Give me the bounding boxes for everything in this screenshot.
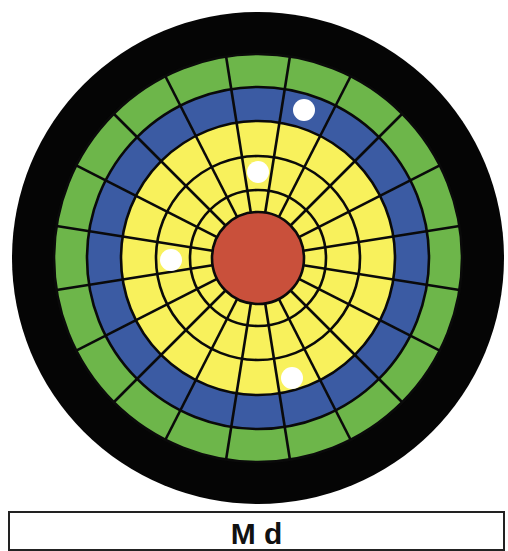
marker-2-dot <box>247 161 269 183</box>
marker-3-dot <box>160 249 182 271</box>
center-core <box>212 212 304 304</box>
marker-1-dot <box>293 99 315 121</box>
core-layer <box>212 212 304 304</box>
marker-4-dot <box>281 367 303 389</box>
caption-box: M d <box>8 511 505 551</box>
caption-text: M d <box>10 519 503 549</box>
